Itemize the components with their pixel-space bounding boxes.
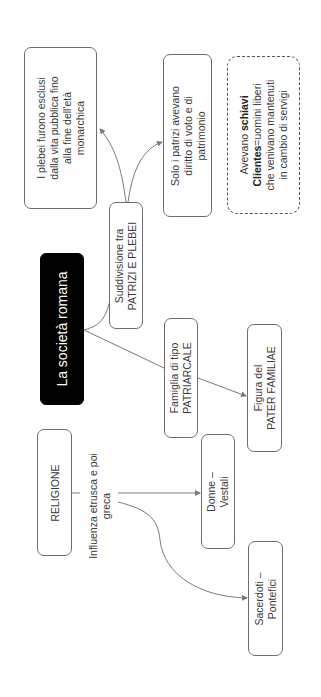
suddivisione-text-line: Suddivisione tra: [113, 221, 126, 309]
plebei-text-line: dalla vita pubblica fino: [48, 76, 61, 179]
clientes-line: Clientes=uomini liberi: [251, 80, 264, 191]
plebei-node: I plebei furono esclusi dalla vita pubbl…: [24, 47, 97, 209]
famiglia-text-line: Famiglia di tipo: [168, 342, 181, 413]
patrizi-node: Solo i patrizi avevano diritto di voto e…: [163, 54, 212, 217]
plebei-text-line: I plebei furono esclusi: [35, 76, 48, 179]
patrizi-text-line: diritto di voto e di: [181, 86, 194, 186]
pontefici-text-line: Sacerdoti –: [253, 572, 266, 625]
schiavi-clientes-note: Avevano schiavi Clientes=uomini liberi c…: [227, 56, 300, 214]
religione-label: RELIGIONE: [48, 464, 61, 521]
pontefici-node: Sacerdoti – Pontefici: [248, 541, 283, 656]
schiavi-text-line: che venivano mantenuti: [264, 80, 277, 191]
schiavi-text-line: in cambio di servigi: [277, 80, 290, 191]
title-node: La società romana: [40, 253, 84, 405]
vestali-text-line: Vestali: [218, 472, 231, 512]
famiglia-text-line: PATRIARCALE: [181, 342, 194, 413]
influenza-text-line: greca: [100, 453, 113, 559]
vestali-node: Donne – Vestali: [201, 434, 235, 549]
pontefici-text-line: Pontefici: [266, 572, 279, 625]
patrizi-text-line: Solo i patrizi avevano: [168, 86, 181, 186]
influenza-label: Influenza etrusca e poi greca: [82, 440, 118, 572]
page-title: La società romana: [54, 271, 70, 386]
plebei-text-line: alla fine dell'età: [61, 76, 74, 179]
patrizi-text-line: patrimonio: [194, 86, 207, 186]
pater-text-line: PATER FAMILIAE: [265, 346, 278, 430]
schiavi-line: Avevano schiavi: [238, 80, 251, 191]
suddivisione-text-line: PATRIZI E PLEBEI: [126, 221, 139, 309]
pater-text-line: Figura del: [252, 346, 265, 430]
suddivisione-node: Suddivisione tra PATRIZI E PLEBEI: [109, 202, 143, 329]
vestali-text-line: Donne –: [205, 472, 218, 512]
influenza-text-line: Influenza etrusca e poi: [87, 453, 100, 559]
famiglia-node: Famiglia di tipo PATRIARCALE: [164, 318, 198, 438]
plebei-text-line: monarchica: [74, 76, 87, 179]
pater-familiae-node: Figura del PATER FAMILIAE: [247, 324, 282, 452]
religione-node: RELIGIONE: [37, 429, 72, 556]
